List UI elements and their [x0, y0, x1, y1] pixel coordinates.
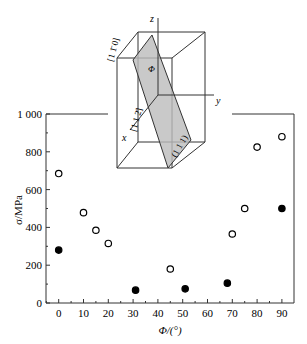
svg-text:40: 40: [152, 307, 164, 319]
svg-text:50: 50: [177, 307, 189, 319]
scatter-plot: 02004006008001 0000102030405060708090Φ/(…: [0, 0, 307, 344]
svg-text:70: 70: [227, 307, 239, 319]
svg-text:10: 10: [78, 307, 90, 319]
svg-text:[1 1̄ 0]: [1 1̄ 0]: [105, 37, 121, 63]
svg-text:30: 30: [128, 307, 140, 319]
svg-text:600: 600: [26, 184, 43, 196]
svg-text:[1 1 2̄]: [1 1 2̄]: [128, 107, 144, 133]
svg-text:Φ: Φ: [148, 64, 155, 74]
svg-text:x: x: [121, 132, 127, 143]
svg-text:Φ/(°): Φ/(°): [158, 324, 181, 337]
svg-text:z: z: [149, 13, 154, 24]
svg-text:1 000: 1 000: [17, 108, 42, 120]
svg-text:0: 0: [56, 307, 62, 319]
svg-text:200: 200: [26, 259, 43, 271]
chart: 02004006008001 0000102030405060708090Φ/(…: [0, 0, 307, 344]
svg-text:60: 60: [202, 307, 214, 319]
svg-text:20: 20: [103, 307, 115, 319]
svg-text:80: 80: [252, 307, 264, 319]
svg-text:y: y: [215, 95, 221, 106]
svg-text:0: 0: [37, 297, 43, 309]
svg-text:90: 90: [276, 307, 288, 319]
svg-text:800: 800: [26, 146, 43, 158]
svg-text:400: 400: [26, 221, 43, 233]
svg-text:σ/MPa: σ/MPa: [12, 195, 24, 225]
